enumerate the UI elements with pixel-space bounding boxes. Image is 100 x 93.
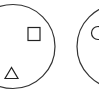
left-outer-circle (0, 5, 55, 89)
small-circle-shape (92, 27, 100, 40)
right-panel (77, 5, 99, 89)
left-panel (0, 5, 55, 89)
right-outer-circle (77, 5, 99, 89)
square-shape (28, 28, 40, 41)
triangle-shape (5, 68, 18, 79)
diagram-canvas (0, 0, 99, 93)
